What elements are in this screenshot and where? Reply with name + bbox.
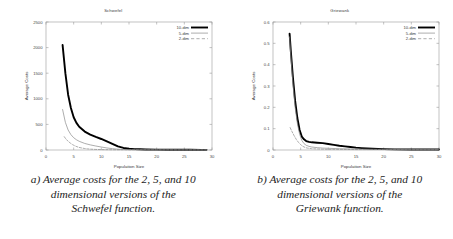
schwefel-x-tick-label: 0 (45, 154, 48, 159)
griewank-y-tick-label: 0.4 (263, 62, 269, 67)
griewank-x-tick-label: 25 (408, 154, 413, 159)
figure-panels-row: Schwefel 0510152025300500100015002000250… (0, 0, 453, 172)
griewank-legend-label-2-dim: 2-dim (405, 36, 416, 41)
griewank-legend-label-10-dim: 10-dim (403, 25, 416, 30)
griewank-x-tick-label: 0 (271, 154, 274, 159)
schwefel-legend-label-2-dim: 2-dim (179, 36, 190, 41)
griewank-y-tick-label: 0.6 (263, 20, 269, 25)
schwefel-y-tick-label: 0 (40, 148, 43, 153)
griewank-y-tick-label: 0.3 (263, 84, 269, 89)
griewank-y-tick-label: 0.5 (263, 41, 269, 46)
schwefel-x-tick-label: 5 (72, 154, 75, 159)
schwefel-y-tick-label: 1500 (33, 71, 43, 76)
griewank-series-10-dim (289, 34, 438, 150)
griewank-series-2-dim (290, 128, 439, 150)
griewank-x-tick-label: 30 (436, 154, 441, 159)
chart-panel-griewank: Griewank 05101520253000.10.20.30.40.50.6… (227, 0, 453, 172)
plot-schwefel: 05101520253005001000150020002500Populati… (0, 0, 226, 172)
schwefel-series-10-dim (63, 45, 207, 150)
schwefel-series-5-dim (63, 110, 207, 150)
schwefel-y-tick-label: 500 (36, 122, 44, 127)
griewank-x-tick-label: 5 (299, 154, 302, 159)
caption-griewank: b) Average costs for the 2, 5, and 10 di… (227, 172, 453, 239)
plot-griewank: 05101520253000.10.20.30.40.50.6Populatio… (227, 0, 453, 172)
schwefel-y-tick-label: 2000 (33, 45, 43, 50)
griewank-x-tick-label: 20 (381, 154, 386, 159)
caption-line: b) Average costs for the 2, 5, and 10 (249, 172, 432, 187)
schwefel-series-2-dim (64, 137, 206, 150)
griewank-x-axis-label: Population Size (340, 164, 371, 169)
caption-line: a) Average costs for the 2, 5, and 10 (22, 172, 205, 187)
schwefel-x-tick-label: 30 (210, 154, 215, 159)
griewank-legend-label-5-dim: 5-dim (405, 31, 416, 36)
griewank-y-axis-label: Average Costs (251, 71, 256, 101)
griewank-series-5-dim (289, 37, 438, 150)
griewank-plot-frame (273, 22, 439, 150)
schwefel-x-tick-label: 25 (182, 154, 187, 159)
schwefel-x-tick-label: 15 (127, 154, 132, 159)
figure-captions-row: a) Average costs for the 2, 5, and 10 di… (0, 172, 453, 239)
griewank-y-tick-label: 0.2 (263, 105, 269, 110)
schwefel-legend-label-5-dim: 5-dim (179, 31, 190, 36)
schwefel-x-axis-label: Population Size (114, 164, 145, 169)
caption-schwefel: a) Average costs for the 2, 5, and 10 di… (0, 172, 227, 239)
schwefel-y-axis-label: Average Costs (24, 71, 29, 101)
schwefel-y-tick-label: 2500 (33, 20, 43, 25)
griewank-y-tick-label: 0.1 (263, 126, 269, 131)
caption-line: dimensional versions of the (249, 187, 432, 202)
caption-line: Griewank function. (249, 201, 432, 216)
schwefel-x-tick-label: 20 (154, 154, 159, 159)
griewank-x-tick-label: 10 (325, 154, 330, 159)
griewank-x-tick-label: 15 (353, 154, 358, 159)
griewank-y-tick-label: 0 (267, 148, 270, 153)
caption-line: dimensional versions of the (22, 187, 205, 202)
chart-panel-schwefel: Schwefel 0510152025300500100015002000250… (0, 0, 227, 172)
schwefel-x-tick-label: 10 (99, 154, 104, 159)
caption-line: Schwefel function. (22, 201, 205, 216)
schwefel-plot-frame (46, 22, 212, 150)
schwefel-y-tick-label: 1000 (33, 96, 43, 101)
schwefel-legend-label-10-dim: 10-dim (176, 25, 189, 30)
